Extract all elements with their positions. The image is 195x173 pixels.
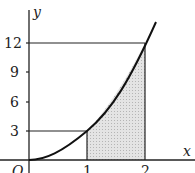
y-axis-label: y xyxy=(32,4,42,20)
y-tick-label-6: 6 xyxy=(10,94,19,110)
parabola-chart: y x O 1 2 3 6 9 12 xyxy=(0,0,195,173)
y-tick-label-12: 12 xyxy=(4,35,22,51)
x-axis-label: x xyxy=(183,143,191,159)
x-tick-label-1: 1 xyxy=(83,163,92,173)
x-tick-label-2: 2 xyxy=(141,163,150,173)
origin-label: O xyxy=(12,163,24,173)
y-tick-label-3: 3 xyxy=(10,123,19,139)
y-tick-label-9: 9 xyxy=(10,64,19,80)
shaded-area xyxy=(87,43,145,160)
